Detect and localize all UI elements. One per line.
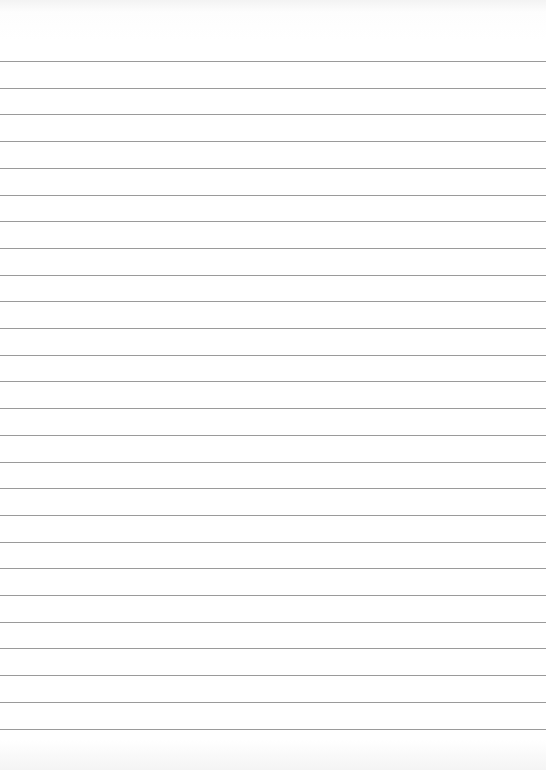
ruled-line [0,381,546,382]
ruled-line [0,462,546,463]
ruled-line [0,301,546,302]
ruled-line [0,648,546,649]
ruled-line [0,195,546,196]
ruled-line [0,542,546,543]
ruled-line [0,114,546,115]
lined-paper-sheet [0,0,546,770]
ruled-line [0,702,546,703]
ruled-line [0,248,546,249]
ruled-line [0,675,546,676]
ruled-line [0,595,546,596]
ruled-line [0,488,546,489]
ruled-line [0,622,546,623]
ruled-line [0,729,546,730]
ruled-line [0,61,546,62]
ruled-line [0,328,546,329]
ruled-line [0,408,546,409]
ruled-line [0,168,546,169]
ruled-line [0,141,546,142]
ruled-line [0,221,546,222]
ruled-line [0,88,546,89]
ruled-line [0,515,546,516]
ruled-line [0,275,546,276]
ruled-line [0,568,546,569]
ruled-line [0,355,546,356]
ruled-line [0,435,546,436]
